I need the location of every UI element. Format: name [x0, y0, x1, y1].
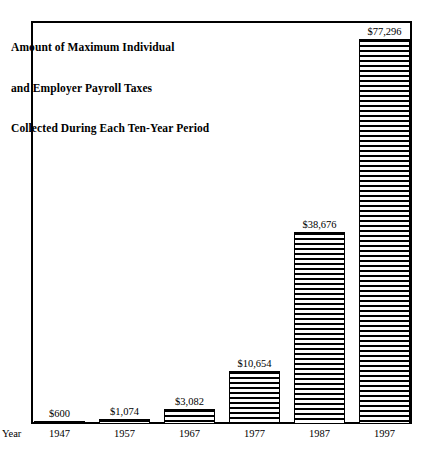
- bar-slot: [99, 21, 150, 424]
- x-tick-1957: 1957: [99, 428, 150, 440]
- x-tick-1947: 1947: [34, 428, 85, 440]
- bar-1967[interactable]: [164, 409, 215, 424]
- bar-value-label-1957: $1,074: [110, 406, 139, 417]
- bar-1947[interactable]: [34, 421, 85, 424]
- bar-slot: [359, 21, 410, 424]
- bar-value-label-1997: $77,296: [367, 26, 401, 37]
- plot-area: [31, 21, 412, 424]
- x-tick-1977: 1977: [229, 428, 280, 440]
- bar-chart: Amount of Maximum Individual and Employe…: [0, 0, 431, 463]
- x-tick-1997: 1997: [359, 428, 410, 440]
- x-tick-1967: 1967: [164, 428, 215, 440]
- bar-1997[interactable]: [359, 39, 410, 424]
- bar-value-label-1987: $38,676: [302, 219, 336, 230]
- bar-1957[interactable]: [99, 419, 150, 424]
- x-tick-1987: 1987: [294, 428, 345, 440]
- bar-value-label-1977: $10,654: [237, 358, 271, 369]
- bar-1987[interactable]: [294, 232, 345, 424]
- bar-value-label-1967: $3,082: [175, 396, 204, 407]
- bar-value-label-1947: $600: [49, 408, 70, 419]
- bar-slot: [164, 21, 215, 424]
- bar-slot: [34, 21, 85, 424]
- bar-1977[interactable]: [229, 371, 280, 424]
- x-axis-title: Year: [2, 428, 21, 440]
